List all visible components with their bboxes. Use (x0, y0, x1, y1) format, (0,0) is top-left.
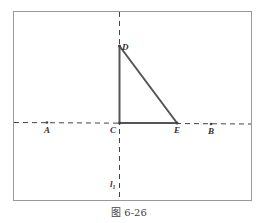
figure-frame (14, 12, 252, 201)
label-a: A (43, 125, 50, 135)
label-d: D (121, 42, 129, 52)
label-e: E (173, 125, 180, 135)
label-b: B (207, 126, 214, 136)
point-d (118, 45, 121, 48)
triangle-cde (120, 46, 178, 123)
diagram-canvas: A C E B D l1 (0, 0, 258, 223)
label-c: C (110, 125, 117, 135)
point-c (118, 122, 121, 125)
point-a (46, 121, 49, 124)
label-l1-subscript: 1 (113, 184, 116, 190)
geometry-figure: A C E B D l1 图 6-26 (0, 0, 258, 223)
figure-caption: 图 6-26 (0, 204, 258, 219)
point-b (210, 123, 213, 126)
label-l1: l1 (110, 179, 116, 190)
